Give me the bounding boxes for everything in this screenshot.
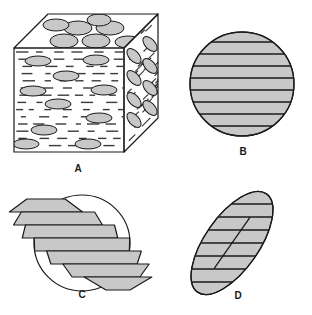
inclusion-ellipse bbox=[82, 34, 110, 48]
inclusion-ellipse bbox=[25, 56, 51, 66]
inclusion-ellipse bbox=[75, 139, 101, 149]
inclusion-ellipse bbox=[45, 99, 71, 109]
inclusion-ellipse bbox=[83, 55, 109, 65]
slab-slice bbox=[22, 225, 117, 238]
inclusion-ellipse bbox=[13, 139, 39, 149]
slab-slice bbox=[84, 277, 152, 290]
panel-d-tilted-elliptical-section: D bbox=[162, 180, 312, 315]
slab-slice bbox=[63, 264, 149, 277]
panel-label-d: D bbox=[234, 290, 241, 301]
panel-label-a: A bbox=[74, 163, 81, 174]
inclusion-ellipse bbox=[50, 34, 78, 48]
inclusion-ellipse bbox=[31, 125, 57, 135]
slab-slice bbox=[47, 251, 142, 264]
inclusion-ellipse bbox=[91, 85, 117, 95]
slab-slice bbox=[34, 238, 129, 251]
panel-label-b: B bbox=[239, 146, 246, 157]
inclusion-ellipse bbox=[53, 71, 79, 81]
inclusion-ellipse bbox=[43, 19, 69, 31]
inclusion-ellipse bbox=[86, 113, 112, 123]
slab-slice bbox=[9, 199, 82, 212]
inclusion-ellipse bbox=[20, 86, 46, 96]
inclusion-ellipse bbox=[87, 14, 111, 26]
slab-slice bbox=[14, 212, 103, 225]
panel-label-c: C bbox=[78, 289, 85, 300]
panel-c-sheared-slab-stack: C bbox=[0, 180, 160, 315]
composite-inclusions-figure: A B C D bbox=[0, 0, 312, 315]
panel-b-circular-cross-section: B bbox=[180, 15, 305, 185]
panel-a-cube-3d-composite-block: A bbox=[0, 0, 175, 185]
